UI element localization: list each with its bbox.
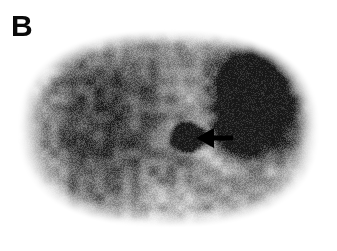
figure-panel-b: B xyxy=(0,0,337,251)
page-title: B xyxy=(11,11,33,41)
nuclear-medicine-scan-image xyxy=(0,0,337,251)
